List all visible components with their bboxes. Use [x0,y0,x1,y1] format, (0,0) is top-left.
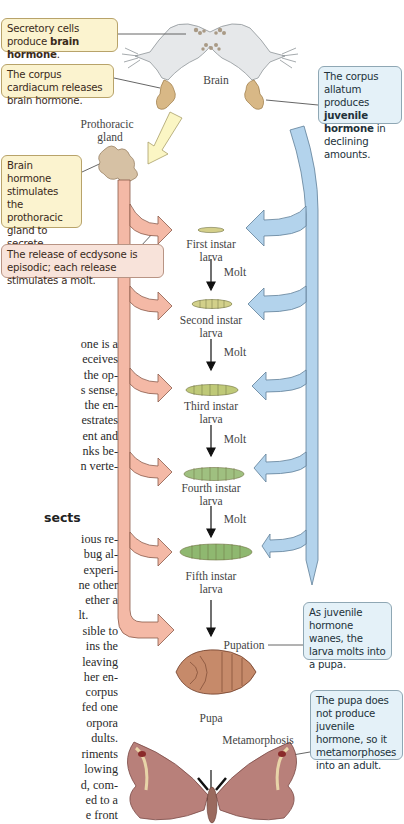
label-prothoracic-gland-line1: Prothoracic [72,118,142,131]
stage-label-fifth-instar: Fifth instar larva [165,570,257,596]
moth-illustration [127,742,296,823]
text-line: d, com- [81,778,118,793]
text-line: estrates [80,413,118,428]
label-metamorphosis: Metamorphosis [218,734,298,747]
text-line: one is a [80,337,118,352]
label-molt-4: Molt [220,513,250,526]
label-pupa: Pupa [193,712,229,725]
text-line: orpora [82,716,118,731]
stage-label-line1: Second instar [165,314,257,327]
text-line: nks be- [80,444,118,459]
brain-illustration [122,24,298,110]
stage-label-line1: Fifth instar [165,570,257,583]
text-line: ious re- [78,532,118,547]
text-line: lt. [78,608,118,623]
stage-label-third-instar: Third instar larva [165,400,257,426]
pupa-illustration [176,650,256,694]
stage-label-first-instar: First instar larva [165,238,257,264]
text-line: ne other [78,578,118,593]
prothoracic-gland [99,146,138,183]
text-line: eceives [80,352,118,367]
callout-ecdysone-episodic: The release of ecdysone is episodic; eac… [1,244,164,278]
label-molt-1: Molt [220,266,250,279]
text-line: her en- [82,670,118,685]
label-molt-2: Molt [220,346,250,359]
callout-corpus-allatum: The corpus allatum produces juvenile hor… [318,66,402,124]
text-line: the op- [80,368,118,383]
body-paragraph-4: riments lowing d, com- ed to a e front [81,747,118,823]
text-line: experi- [78,563,118,578]
label-pupation: Pupation [218,639,270,652]
text-line: leaving [82,655,118,670]
text-line: corpus [82,685,118,700]
text-line: n verte- [80,459,118,474]
callout-text-tail: . [57,49,60,60]
label-prothoracic-gland-line2: gland [90,131,130,144]
callout-brain-hormone-stimulates: Brain hormone stimulates the prothoracic… [1,155,82,228]
stage-label-line1: First instar [165,238,257,251]
callout-secretory-cells: Secretory cells produce brain hormone. [1,18,118,52]
body-paragraph-1: one is a eceives the op- s sense, the en… [80,337,118,475]
text-line: dults. [82,731,118,746]
label-brain: Brain [196,74,236,87]
juvenile-hormone-pathway [246,126,318,585]
stage-label-line2: larva [165,413,257,426]
stage-label-second-instar: Second instar larva [165,314,257,340]
section-heading: sects [44,510,81,525]
callout-pupation-note: As juvenile hormone wanes, the larva mol… [303,602,392,660]
stage-label-line2: larva [165,495,257,508]
text-line: ent and [80,429,118,444]
stage-label-line1: Third instar [165,400,257,413]
stage-label-line2: larva [165,583,257,596]
text-line: riments [81,747,118,762]
text-line: fed one [82,700,118,715]
text-line: ether a [78,593,118,608]
body-paragraph-2: ious re- bug al- experi- ne other ether … [78,532,118,624]
text-line: e front [81,808,118,823]
stage-label-line1: Fourth instar [165,482,257,495]
callout-corpus-cardiacum: The corpus cardiacum releases brain horm… [1,64,114,98]
body-paragraph-3: sible to ins the leaving her en- corpus … [82,624,118,746]
label-molt-3: Molt [220,433,250,446]
stage-label-line2: larva [165,327,257,340]
text-line: ed to a [81,793,118,808]
text-line: s sense, [80,383,118,398]
text-line: lowing [81,762,118,777]
text-line: bug al- [78,547,118,562]
brain-hormone-arrow [148,112,182,164]
callout-text: The pupa does not produce juvenile hormo… [316,695,396,771]
callout-pupa-note: The pupa does not produce juvenile hormo… [310,690,403,760]
stage-label-fourth-instar: Fourth instar larva [165,482,257,508]
text-line: the en- [80,398,118,413]
stage-label-line2: larva [165,251,257,264]
text-line: ins the [82,639,118,654]
callout-bold-term: juvenile hormone [324,110,374,134]
callout-text: The corpus allatum produces [324,71,378,108]
text-line: sible to [82,624,118,639]
